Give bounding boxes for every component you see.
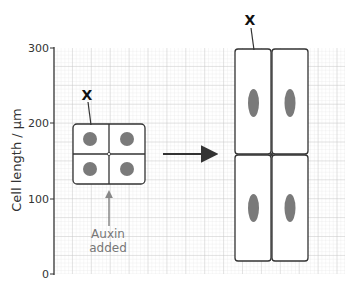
nucleus bbox=[248, 89, 259, 117]
tick-300: 300 bbox=[28, 42, 49, 55]
nucleus bbox=[83, 162, 97, 176]
label-x-large: X bbox=[245, 12, 256, 28]
tick-0: 0 bbox=[42, 268, 49, 281]
tick-200: 200 bbox=[28, 117, 49, 130]
nucleus bbox=[120, 132, 134, 146]
auxin-label-line1: Auxin bbox=[91, 227, 125, 241]
diagram-canvas: 300 200 100 0 Cell length / µm X Auxin a… bbox=[0, 0, 355, 289]
nucleus bbox=[83, 132, 97, 146]
nucleus bbox=[248, 194, 259, 222]
label-pointer bbox=[251, 28, 254, 50]
label-x-small: X bbox=[82, 87, 93, 103]
tick-100: 100 bbox=[28, 193, 49, 206]
nucleus bbox=[285, 89, 296, 117]
auxin-label-line2: added bbox=[89, 241, 127, 255]
nucleus bbox=[120, 162, 134, 176]
y-axis: 300 200 100 0 Cell length / µm bbox=[9, 42, 54, 281]
nucleus bbox=[285, 194, 296, 222]
y-axis-label: Cell length / µm bbox=[9, 108, 24, 211]
